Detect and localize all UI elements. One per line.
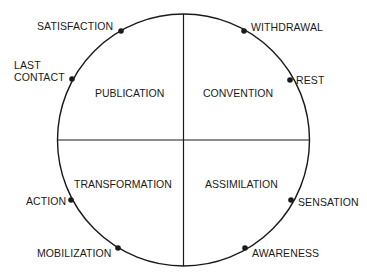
quadrant-publication: PUBLICATION (95, 87, 164, 99)
label-last-contact-line1: LAST (14, 59, 65, 71)
label-action: ACTION (26, 195, 66, 207)
label-satisfaction: SATISFACTION (37, 20, 113, 32)
dot-awareness (242, 245, 248, 251)
dot-last-contact (69, 76, 75, 82)
label-rest: REST (296, 74, 324, 86)
quadrant-convention: CONVENTION (203, 87, 273, 99)
label-last-contact-line2: CONTACT (14, 71, 65, 83)
label-mobilization: MOBILIZATION (37, 247, 112, 259)
label-withdrawal: WITHDRAWAL (251, 21, 323, 33)
quadrant-assimilation: ASSIMILATION (205, 178, 278, 190)
label-awareness: AWARENESS (252, 247, 319, 259)
cycle-diagram (0, 0, 367, 280)
dot-sensation (288, 197, 294, 203)
dot-withdrawal (241, 28, 247, 34)
dot-mobilization (115, 245, 121, 251)
dot-action (68, 197, 74, 203)
dot-satisfaction (118, 28, 124, 34)
label-last-contact: LAST CONTACT (14, 59, 65, 83)
dot-rest (287, 77, 293, 83)
quadrant-transformation: TRANSFORMATION (74, 178, 172, 190)
label-sensation: SENSATION (298, 196, 359, 208)
